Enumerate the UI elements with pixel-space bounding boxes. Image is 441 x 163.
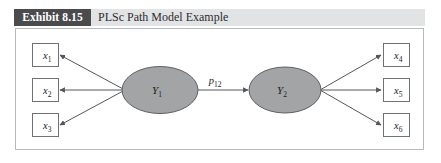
path-y1-to-x3: [60, 90, 125, 125]
path-y2-to-x4: [320, 55, 381, 90]
exhibit-figure: Exhibit 8.15 PLSc Path Model Example Y1 …: [0, 0, 441, 163]
path-model-diagram: Y1 Y2 p12 x1 x2 x3 x4 x5: [15, 28, 424, 150]
exhibit-tag-label: Exhibit 8.15: [14, 9, 91, 26]
path-y2-to-x6: [320, 90, 381, 125]
exhibit-tag-block: Exhibit 8.15: [14, 9, 91, 26]
exhibit-title: PLSc Path Model Example: [98, 9, 228, 26]
path-y1-to-x1: [60, 55, 125, 90]
path-coefficient-label: p12: [208, 75, 222, 89]
